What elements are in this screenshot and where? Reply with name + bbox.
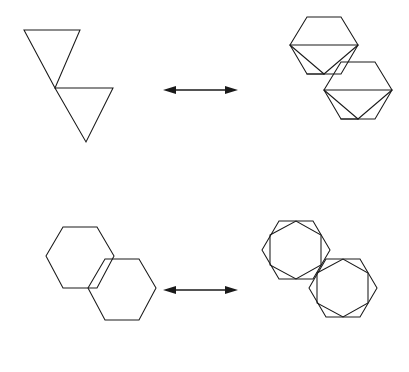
canvas-background xyxy=(0,0,409,372)
geometric-equivalence-diagram xyxy=(0,0,409,372)
